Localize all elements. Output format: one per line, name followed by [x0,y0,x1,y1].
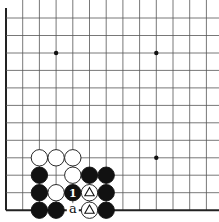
point-label: a [69,201,77,216]
go-board-diagram: 1 a [0,0,219,222]
star-point [154,156,158,160]
board-labels: a [67,201,79,216]
black-stone [31,167,47,183]
white-stone [31,150,47,166]
black-stone [48,202,64,218]
black-stone [98,185,114,201]
black-stone [31,185,47,201]
star-point [154,51,158,55]
move-number: 1 [69,187,77,200]
black-stone [31,202,47,218]
star-point [54,51,58,55]
white-stone [81,185,97,201]
white-stone [48,150,64,166]
white-stone [65,150,81,166]
black-stone: 1 [65,185,81,201]
black-stone [81,167,97,183]
white-stone [65,167,81,183]
white-stone [48,185,64,201]
black-stone [98,202,114,218]
white-stone [81,202,97,218]
black-stone [98,167,114,183]
